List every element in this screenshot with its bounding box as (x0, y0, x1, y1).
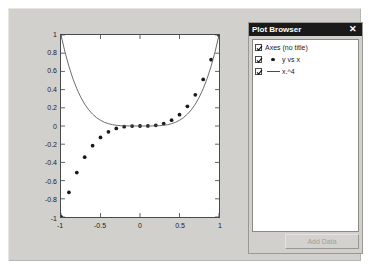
x-axis-tick-label: 0.5 (168, 222, 192, 229)
x-axis-tick-label: -1 (48, 222, 72, 229)
plot-browser-list[interactable]: Axes (no title)y vs xx.^4 (252, 39, 359, 232)
y-axis-tick-label: 0.2 (30, 104, 57, 111)
add-data-button[interactable]: Add Data (285, 234, 359, 249)
y-axis-tick-label: 1 (30, 31, 57, 38)
plot-axes-container: 10.80.60.40.20-0.2-0.4-0.6-0.8-1 -1-0.50… (30, 22, 238, 240)
list-item[interactable]: Axes (no title) (255, 42, 356, 53)
y-axis-tick-label: 0 (30, 123, 57, 130)
y-axis-tick-label: -0.2 (30, 141, 57, 148)
checkbox-icon[interactable] (255, 44, 262, 51)
plot-browser-panel: Plot Browser ✕ Axes (no title)y vs xx.^4… (248, 22, 363, 254)
plot-canvas (61, 35, 219, 217)
line-swatch-icon (265, 71, 281, 72)
plot-browser-title-text: Plot Browser (252, 23, 301, 36)
x-axis-tick-label: 0 (128, 222, 152, 229)
list-item-label: x.^4 (282, 68, 295, 76)
y-axis-tick-label: 0.6 (30, 67, 57, 74)
y-axis-tick-label: 0.8 (30, 49, 57, 56)
list-item-label: y vs x (282, 56, 300, 64)
y-axis-tick-label: -0.6 (30, 178, 57, 185)
figure-window: 10.80.60.40.20-0.2-0.4-0.6-0.8-1 -1-0.50… (8, 8, 361, 261)
y-axis-tick-label: -1 (30, 215, 57, 222)
y-axis-tick-label: -0.8 (30, 196, 57, 203)
y-axis-tick-label: -0.4 (30, 159, 57, 166)
x-axis-tick-label: 1 (208, 222, 232, 229)
checkbox-icon[interactable] (255, 68, 262, 75)
list-item[interactable]: y vs x (255, 54, 356, 65)
close-icon[interactable]: ✕ (347, 23, 359, 36)
checkbox-icon[interactable] (255, 56, 262, 63)
list-item-label: Axes (no title) (265, 44, 308, 52)
marker-dot-icon (265, 58, 281, 62)
plot-axes[interactable] (60, 34, 220, 218)
y-axis-tick-label: 0.4 (30, 86, 57, 93)
screenshot-root: 10.80.60.40.20-0.2-0.4-0.6-0.8-1 -1-0.50… (0, 0, 369, 279)
plot-browser-titlebar: Plot Browser ✕ (249, 23, 362, 36)
list-item[interactable]: x.^4 (255, 66, 356, 77)
x-axis-tick-label: -0.5 (88, 222, 112, 229)
